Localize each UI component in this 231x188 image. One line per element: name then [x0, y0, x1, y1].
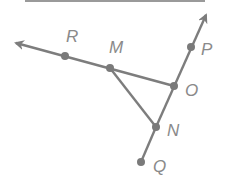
ray-NP — [156, 15, 206, 127]
point-M — [106, 64, 114, 72]
point-R — [61, 52, 69, 60]
label-M: M — [109, 38, 124, 57]
point-P — [187, 43, 195, 51]
point-O — [170, 82, 178, 90]
label-N: N — [167, 121, 180, 140]
point-Q — [137, 158, 145, 166]
segment-MN — [110, 68, 156, 127]
ray-OR — [16, 43, 174, 86]
label-P: P — [201, 40, 213, 59]
label-O: O — [185, 81, 198, 100]
geometry-diagram: RMOPNQ — [0, 0, 231, 188]
label-Q: Q — [153, 157, 166, 176]
label-R: R — [66, 27, 78, 46]
point-N — [152, 123, 160, 131]
